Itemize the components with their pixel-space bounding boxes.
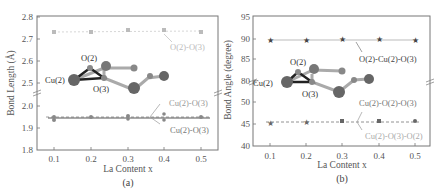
ytick-label: 2.6 [22, 56, 34, 66]
legend-label-cu2-o3-upper: Cu(2)-O(3) [169, 98, 208, 108]
series-cu2-o3-a [46, 112, 210, 122]
xtick-label: 0.4 [158, 154, 170, 164]
ytick-label: 80 [241, 76, 251, 86]
ytick-label: 1.8 [22, 145, 34, 155]
legend-label-o2-o3: O(2)-O(3) [170, 42, 205, 52]
legend-label-cu2-o3-o2: Cu(2)-O(3)-O(2) [365, 131, 423, 141]
panel-caption-a: (a) [122, 177, 133, 189]
xtick-label: 0.4 [373, 151, 385, 161]
xtick-label: 0.2 [85, 154, 96, 164]
panel-b: 95 90 85 80 50 45 40 0.1 0.2 0.3 0.4 0.5… [223, 12, 434, 185]
axis-break-a [33, 90, 222, 96]
svg-text:★: ★ [376, 35, 383, 44]
molecule-inset-b [281, 64, 374, 98]
xtick-label: 0.1 [48, 154, 59, 164]
inset-label-o2-a: O(2) [81, 53, 97, 63]
ytick-label: 2.8 [22, 12, 34, 22]
legend-label-o2-cu2-o3: O(2)-Cu(2)-O(3) [359, 54, 417, 64]
xtick-label: 0.3 [122, 154, 134, 164]
xtick-label: 0.5 [195, 154, 207, 164]
y-axis-label-a: Bond Length (Å) [5, 50, 17, 115]
svg-text:★: ★ [303, 118, 310, 127]
x-axis-label-b: La Content x [317, 160, 367, 170]
svg-text:★: ★ [339, 35, 346, 44]
ytick-label: 50 [241, 97, 251, 107]
ytick-label: 85 [241, 54, 251, 64]
ytick-label: 40 [241, 141, 251, 151]
molecule-inset-a [68, 61, 169, 94]
svg-text:★: ★ [303, 36, 310, 45]
legend-label-cu2-o3-lower: Cu(2)-O(3) [170, 125, 209, 135]
ytick-label: 45 [241, 119, 251, 129]
ytick-label: 95 [241, 12, 251, 22]
ytick-label: 90 [241, 34, 251, 44]
ytick-label: 2.5 [22, 78, 34, 88]
y-axis-label-b: Bond Angle (degree) [223, 40, 234, 120]
series-o2-cu2-o3: ★★★ ★★ [267, 35, 419, 45]
axis-break-b [249, 79, 434, 85]
svg-text:★: ★ [267, 36, 274, 45]
xtick-label: 0.5 [409, 151, 421, 161]
svg-text:★: ★ [412, 36, 419, 45]
inset-label-cu2-b: Cu(2) [253, 78, 273, 88]
inset-label-cu2-a: Cu(2) [45, 75, 65, 85]
series-cu2-angles: ★★ [266, 118, 420, 128]
inset-label-o3-a: O(3) [93, 84, 109, 94]
panel-a: 2.8 2.7 2.6 2.5 2.0 1.9 1.8 0.1 0.2 0.3 … [5, 12, 222, 189]
legend-label-cu2-o2-o3: Cu(2)-O(2)-O(3) [359, 98, 417, 108]
series-o2-o3 [52, 28, 203, 34]
xtick-label: 0.1 [264, 151, 275, 161]
xtick-label: 0.2 [300, 151, 311, 161]
ytick-label: 2.7 [22, 34, 34, 44]
ytick-label: 2.0 [22, 101, 34, 111]
svg-text:★: ★ [267, 119, 274, 128]
inset-label-o2-b: O(2) [290, 57, 306, 67]
ytick-label: 1.9 [22, 123, 34, 133]
inset-label-o3-b: O(3) [302, 89, 318, 99]
panel-caption-b: (b) [336, 173, 348, 185]
x-axis-label-a: La Content x [103, 164, 153, 174]
